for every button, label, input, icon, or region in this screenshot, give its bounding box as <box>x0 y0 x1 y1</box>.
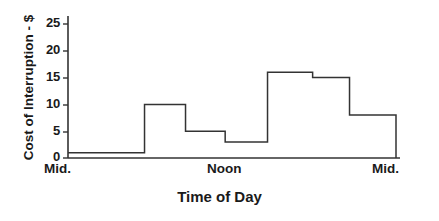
y-axis-title: Cost of Interruption - $ <box>21 0 36 178</box>
y-tick-label-10: 10 <box>38 97 60 110</box>
y-tick-label-20: 20 <box>38 43 60 56</box>
x-tick-label-noon: Noon <box>207 162 242 176</box>
x-tick-label-midnight-right: Mid. <box>372 162 399 176</box>
chart-container: 0 5 10 15 20 25 Mid. Noon Mid. Cost of I… <box>0 0 439 221</box>
x-tick-label-midnight-left: Mid. <box>44 162 71 176</box>
y-tick-label-15: 15 <box>38 70 60 83</box>
y-tick-label-5: 5 <box>38 124 60 137</box>
step-data-line <box>68 72 396 158</box>
x-axis-title: Time of Day <box>0 188 439 205</box>
y-tick-label-25: 25 <box>38 16 60 29</box>
